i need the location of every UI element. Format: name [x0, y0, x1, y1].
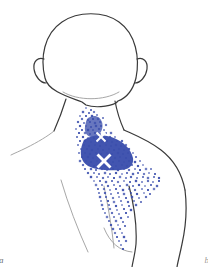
pain-dot [141, 181, 143, 183]
pain-dot [132, 185, 134, 187]
pain-dot [142, 164, 144, 166]
pain-dot [82, 164, 84, 166]
pain-dot [82, 136, 84, 138]
pain-dot [135, 180, 137, 182]
pain-dot [123, 208, 125, 210]
pain-dot [120, 217, 122, 219]
pain-dot [130, 209, 132, 211]
pain-dot [103, 129, 105, 131]
pain-dot [116, 209, 118, 211]
pain-dot [95, 169, 97, 171]
pain-dot [134, 168, 136, 170]
pain-dot [135, 204, 137, 206]
pain-dot [113, 201, 115, 203]
panel-label-a: a [0, 256, 4, 265]
pain-dot [77, 121, 79, 123]
pain-dot [128, 169, 130, 171]
pain-dot [84, 168, 86, 170]
pain-dot [104, 172, 106, 174]
pain-dot [107, 200, 109, 202]
pain-dot [158, 177, 160, 179]
pain-dot [96, 176, 98, 178]
pain-dot [122, 189, 124, 191]
pain-dot [121, 173, 123, 175]
pain-dot [101, 204, 103, 206]
pain-dot [100, 200, 102, 202]
pain-dot [104, 212, 106, 214]
pain-dot [120, 200, 122, 202]
pain-dot [128, 188, 130, 190]
pain-dot [138, 184, 140, 186]
pain-dot [81, 129, 83, 131]
pain-dot [112, 228, 114, 230]
pain-dot [150, 168, 152, 170]
pain-dot [127, 216, 129, 218]
pain-dot [109, 173, 111, 175]
pain-dot [126, 172, 128, 174]
pain-dot [113, 177, 115, 179]
pain-dot [133, 200, 135, 202]
pain-dot [103, 188, 105, 190]
panel-label-b: b [205, 256, 209, 265]
pain-dot [144, 185, 146, 187]
pain-dot [124, 225, 126, 227]
pain-dot [118, 196, 120, 198]
pain-dot [111, 180, 113, 182]
pain-dot [81, 118, 83, 120]
pain-dot [85, 115, 87, 117]
pain-dot [154, 173, 156, 175]
pain-dot [83, 122, 85, 124]
pain-dot [75, 128, 77, 130]
pain-dot [126, 184, 128, 186]
pain-dot [95, 184, 97, 186]
pain-dot [104, 192, 106, 194]
pain-dot [119, 185, 121, 187]
pain-dot [85, 107, 87, 109]
pain-dot [117, 224, 119, 226]
pain-dot [138, 197, 140, 199]
pain-dot [105, 196, 107, 198]
pain-dot [110, 193, 112, 195]
pain-dot [117, 181, 119, 183]
pain-dot [119, 176, 121, 178]
pain-dot [93, 172, 95, 174]
pain-dot [79, 140, 81, 142]
pain-dot [122, 221, 124, 223]
pain-dot [132, 152, 134, 154]
pain-dot [125, 177, 127, 179]
pain-dot [108, 220, 110, 222]
pain-dot [79, 115, 81, 117]
pain-dot [115, 172, 117, 174]
pain-dot [113, 216, 115, 218]
pain-dot [110, 132, 112, 134]
pain-dot [141, 188, 143, 190]
pain-dot [96, 114, 98, 116]
pain-dot [139, 169, 141, 171]
body-diagram [0, 0, 208, 267]
pain-dot [156, 185, 158, 187]
pain-dot [116, 236, 118, 238]
pain-dot [132, 173, 134, 175]
pain-dot [109, 189, 111, 191]
pain-dot [121, 140, 123, 142]
pain-dot [107, 176, 109, 178]
pain-referral-figure: a b [0, 0, 208, 267]
pain-dot [153, 188, 155, 190]
pain-dot [134, 189, 136, 191]
pain-dot [147, 180, 149, 182]
pain-dot [145, 168, 147, 170]
pain-dot [130, 176, 132, 178]
pain-dot [134, 161, 136, 163]
pain-dot [76, 136, 78, 138]
pain-dot [121, 232, 123, 234]
pain-dot [123, 180, 125, 182]
pain-dot [78, 152, 80, 154]
pain-dot [125, 212, 127, 214]
pain-dot [147, 189, 149, 191]
pain-dot [143, 192, 145, 194]
pain-dot [77, 144, 79, 146]
pain-dot [109, 208, 111, 210]
pain-dot [150, 184, 152, 186]
pain-dot [113, 184, 115, 186]
pain-dot [120, 244, 122, 246]
